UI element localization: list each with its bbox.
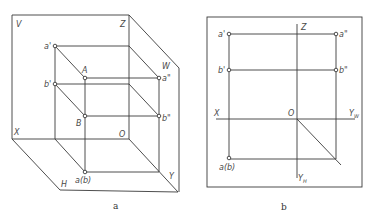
label-YH: YH <box>298 174 307 184</box>
point-b-dprime <box>157 114 161 118</box>
y-axis <box>129 139 178 192</box>
label-a-prime: a' <box>44 42 51 51</box>
proj-line <box>55 46 85 78</box>
point-a-prime-b <box>227 32 231 36</box>
label-ab-b: a(b) <box>219 163 235 172</box>
label-X-b: X <box>213 109 220 118</box>
label-a-dprime-b: a" <box>339 30 348 39</box>
proj-line <box>129 84 159 116</box>
label-B: B <box>76 119 82 128</box>
diagonal-45 <box>297 119 341 165</box>
projection-diagram: V Z W X O H Y a' b' A B a" b" a(b) a <box>0 0 370 218</box>
label-O-b: O <box>288 109 294 118</box>
point-b-prime-b <box>227 68 231 72</box>
point-b-dprime-b <box>334 68 338 72</box>
label-H: H <box>61 180 67 189</box>
label-A: A <box>81 66 87 75</box>
point-B <box>83 114 87 118</box>
v-plane <box>12 15 129 139</box>
label-ab: a(b) <box>75 176 91 185</box>
label-W: W <box>162 62 171 71</box>
figure-b: Z X O YW YH a' b' a" b" a(b) b <box>207 17 362 212</box>
label-b-dprime: b" <box>162 114 171 123</box>
point-A <box>83 76 87 80</box>
frame-b <box>207 17 362 187</box>
figure-a: V Z W X O H Y a' b' A B a" b" a(b) a <box>12 15 179 211</box>
point-a-prime <box>53 44 57 48</box>
label-a-prime-b: a' <box>218 30 225 39</box>
caption-b: b <box>281 202 287 212</box>
label-b-dprime-b: b" <box>339 66 348 75</box>
label-Z: Z <box>119 20 126 29</box>
proj-line <box>55 84 85 116</box>
label-Z-b: Z <box>300 23 307 32</box>
label-YW: YW <box>349 109 360 119</box>
label-V: V <box>16 20 22 29</box>
label-O: O <box>119 130 125 139</box>
point-ab-b <box>227 156 231 160</box>
label-a-dprime: a" <box>162 74 171 83</box>
proj-line <box>55 139 85 172</box>
label-b-prime-b: b' <box>218 66 225 75</box>
proj-line <box>129 46 159 78</box>
label-X: X <box>13 128 20 137</box>
label-b-prime: b' <box>44 80 51 89</box>
point-a-dprime-b <box>334 32 338 36</box>
point-b-prime <box>53 82 57 86</box>
point-a-dprime <box>157 76 161 80</box>
caption-a: a <box>113 201 119 211</box>
point-ab <box>83 170 87 174</box>
label-Y: Y <box>169 172 175 181</box>
